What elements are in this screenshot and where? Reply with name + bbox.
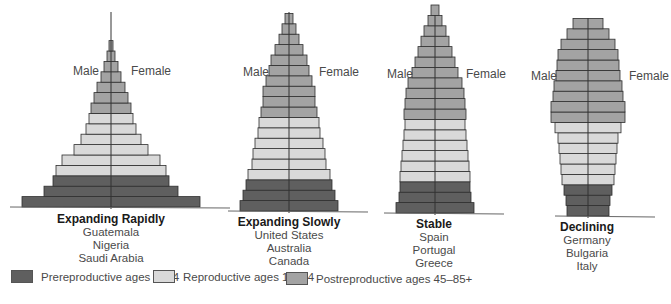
baseline	[384, 213, 504, 214]
pyramid-title: Expanding Rapidly	[36, 213, 186, 226]
pyramid-title: Stable	[359, 218, 509, 231]
country: United States	[214, 229, 364, 242]
caption-stable: Stable Spain Portugal Greece	[359, 218, 509, 270]
female-label-expanding-rapidly: Female	[131, 64, 171, 78]
pyramid-expanding-slowly	[228, 12, 368, 213]
female-label-stable: Female	[466, 67, 506, 81]
pyramid-declining	[551, 18, 655, 218]
baseline	[555, 216, 655, 217]
country: Guatemala	[36, 226, 186, 239]
female-label-expanding-slowly: Female	[319, 65, 359, 79]
pyramid-title: Declining	[512, 221, 662, 234]
country: Australia	[214, 242, 364, 255]
country: Canada	[214, 255, 364, 268]
pyramid-title: Expanding Slowly	[214, 216, 364, 229]
pyramid-expanding-rapidly	[10, 12, 230, 209]
legend-label: Postreproductive ages 45–85+	[316, 273, 472, 285]
caption-declining: Declining Germany Bulgaria Italy	[512, 221, 662, 273]
female-label-declining: Female	[629, 69, 669, 83]
male-label-declining: Male	[531, 69, 557, 83]
country: Spain	[359, 231, 509, 244]
caption-expanding-slowly: Expanding Slowly United States Australia…	[214, 216, 364, 268]
country: Bulgaria	[512, 247, 662, 260]
reproductive-swatch	[153, 270, 175, 283]
country: Germany	[512, 234, 662, 247]
male-label-stable: Male	[387, 67, 413, 81]
country: Saudi Arabia	[36, 252, 186, 265]
postreproductive-swatch	[286, 272, 308, 285]
male-label-expanding-slowly: Male	[243, 65, 269, 79]
age-bar	[431, 5, 439, 15]
country: Greece	[359, 257, 509, 270]
male-label-expanding-rapidly: Male	[73, 64, 99, 78]
country: Italy	[512, 260, 662, 273]
legend-item-postreproductive: Postreproductive ages 45–85+	[286, 272, 472, 285]
country: Portugal	[359, 244, 509, 257]
baseline	[228, 211, 368, 212]
caption-expanding-rapidly: Expanding Rapidly Guatemala Nigeria Saud…	[36, 213, 186, 265]
country: Nigeria	[36, 239, 186, 252]
prereproductive-swatch	[11, 270, 33, 283]
pyramid-stable	[384, 5, 504, 215]
